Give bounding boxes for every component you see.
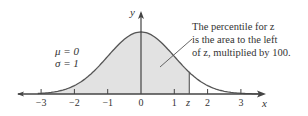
x-tick-label: 0	[139, 97, 144, 108]
mu-label: μ = 0	[54, 45, 79, 57]
x-tick-label: −2	[69, 97, 80, 108]
x-tick-label: 3	[238, 97, 243, 108]
x-tick-label: −1	[102, 97, 113, 108]
annotation-line-1: The percentile for z	[192, 21, 275, 32]
annotation-line-3: of z, multiplied by 100.	[192, 47, 291, 58]
x-axis-label: x	[261, 97, 267, 109]
z-tick-label: z	[185, 97, 190, 108]
annotation-line-2: is the area to the left	[192, 34, 278, 45]
x-tick-label: −3	[36, 97, 47, 108]
x-tick-label: 1	[172, 97, 177, 108]
sigma-label: σ = 1	[55, 57, 79, 69]
x-tick-label: 2	[205, 97, 210, 108]
y-axis-label: y	[129, 6, 135, 18]
normal-curve-diagram: −3−2−10123 y x μ = 0 σ = 1 z The percent…	[0, 0, 308, 116]
